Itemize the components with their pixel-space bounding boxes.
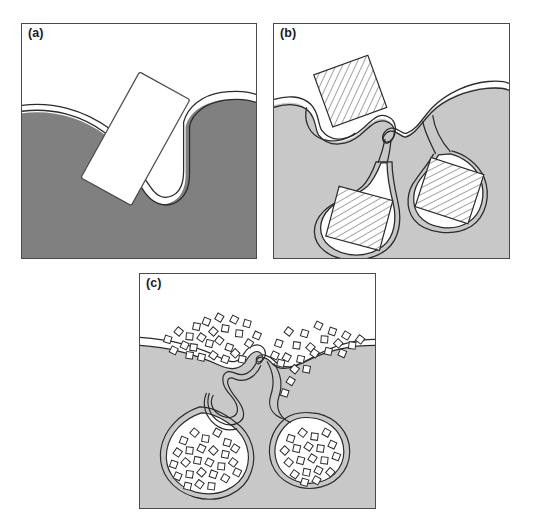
- panel-c-label: (c): [146, 277, 162, 291]
- panel-a-label: (a): [28, 27, 44, 41]
- panel-a-illustration: [22, 24, 256, 258]
- panel-c: (c): [139, 273, 376, 509]
- panel-b: (b): [273, 23, 510, 259]
- panel-b-label: (b): [280, 27, 296, 41]
- panel-b-illustration: [274, 24, 509, 258]
- endocytosis-figure: (a): [0, 0, 547, 521]
- panel-c-illustration: [140, 274, 375, 508]
- panel-a: (a): [21, 23, 257, 259]
